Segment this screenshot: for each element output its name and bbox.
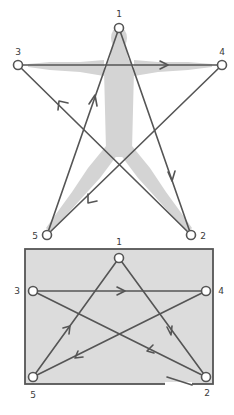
rect-label-node-2: 2: [204, 388, 210, 398]
node-3: [14, 61, 23, 70]
silhouette-torso: [104, 46, 134, 157]
label-node-2: 2: [200, 231, 206, 241]
star-rectangle-diagram: 1 3 4 5 2: [14, 237, 224, 400]
node-4: [218, 61, 227, 70]
rect-node-1: [115, 254, 124, 263]
node-1: [115, 24, 124, 33]
label-node-3: 3: [15, 47, 21, 57]
star-figure-diagram: 1 3 4 5 2: [14, 9, 227, 241]
rect-label-node-4: 4: [218, 286, 224, 296]
label-node-5: 5: [32, 231, 38, 241]
edge-2-to-3: [18, 65, 191, 235]
node-5: [43, 231, 52, 240]
rect-node-4: [202, 287, 211, 296]
silhouette-legs: [46, 146, 192, 232]
rect-node-2: [202, 373, 211, 382]
node-2: [187, 231, 196, 240]
arrow-1-to-2-icon: [168, 171, 175, 181]
rect-node-3: [29, 287, 38, 296]
arrow-4-to-5-icon: [88, 194, 97, 203]
label-node-1: 1: [116, 9, 122, 19]
human-silhouette: [28, 27, 212, 232]
rect-label-node-3: 3: [14, 286, 20, 296]
rect-label-node-5: 5: [30, 390, 36, 400]
rectangle-frame: [25, 249, 213, 384]
rect-label-node-1: 1: [116, 237, 122, 247]
diagram-canvas: 1 3 4 5 2: [0, 0, 234, 415]
edge-4-to-5: [47, 65, 222, 235]
rect-node-5: [29, 373, 38, 382]
label-node-4: 4: [219, 47, 225, 57]
